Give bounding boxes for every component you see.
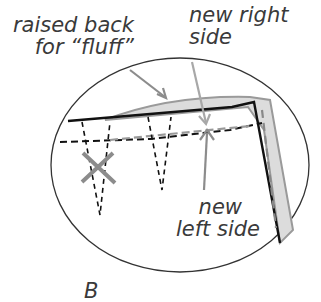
label-partial-b: B (84, 280, 98, 302)
label-new-right-side: new right side (189, 4, 288, 48)
label-new-left-side: new left side (160, 196, 260, 240)
label-raised-back: raised back for “fluff” (4, 14, 134, 58)
